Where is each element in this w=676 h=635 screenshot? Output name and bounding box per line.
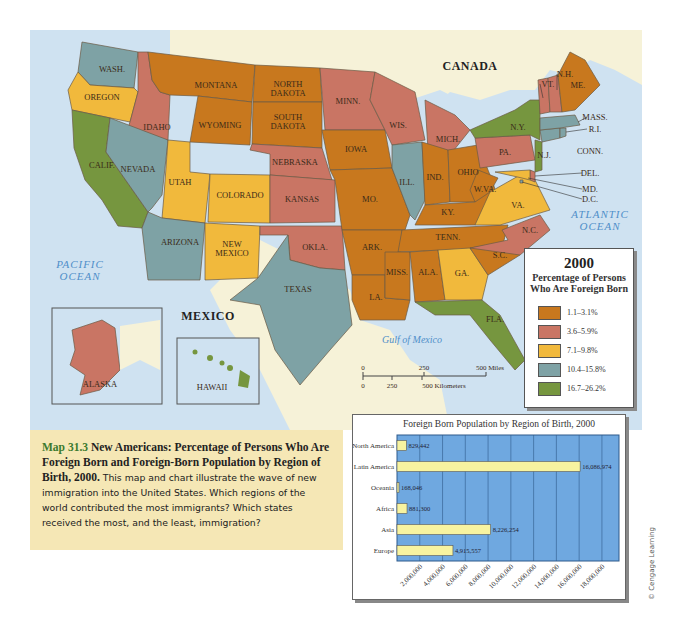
label-la: LA. bbox=[369, 292, 382, 302]
svg-text:500 Miles: 500 Miles bbox=[476, 364, 504, 372]
legend-swatch bbox=[538, 363, 561, 377]
data-label: 881,300 bbox=[409, 505, 430, 512]
label-ky: KY. bbox=[441, 207, 454, 217]
state-ny bbox=[470, 100, 540, 140]
legend-label: 10.4–15.8% bbox=[567, 365, 606, 374]
label-canada: CANADA bbox=[443, 59, 498, 73]
legend-label: 3.6–5.9% bbox=[567, 327, 598, 336]
bar bbox=[397, 504, 407, 514]
label-sc: S.C. bbox=[493, 250, 508, 260]
label-wa: WASH. bbox=[99, 64, 125, 74]
svg-text:250: 250 bbox=[419, 364, 430, 372]
label-ma: MASS. bbox=[582, 112, 607, 122]
x-tick-label: 4,000,000 bbox=[421, 562, 447, 588]
label-ny: N.Y. bbox=[510, 122, 525, 132]
label-nv: NEVADA bbox=[121, 164, 157, 174]
bar bbox=[397, 462, 580, 472]
label-or: OREGON bbox=[84, 92, 119, 102]
label-ks: KANSAS bbox=[285, 194, 319, 204]
label-al: ALA. bbox=[418, 267, 438, 277]
label-in: IND. bbox=[426, 172, 443, 182]
label-nd: NORTHDAKOTA bbox=[270, 79, 306, 98]
legend-item: 16.7–26.2% bbox=[538, 379, 633, 398]
label-mi: MICH. bbox=[436, 134, 460, 144]
category-label: Africa bbox=[376, 505, 395, 513]
label-dc: D.C. bbox=[582, 194, 598, 204]
category-label: Latin America bbox=[354, 463, 395, 471]
legend-swatch bbox=[538, 325, 561, 339]
bar bbox=[397, 441, 406, 451]
label-nj: N.J. bbox=[537, 150, 551, 160]
legend-item: 1.1–3.1% bbox=[538, 303, 633, 322]
caption-number: Map 31.3 bbox=[42, 441, 88, 453]
data-label: 168,046 bbox=[401, 484, 423, 491]
legend: 2000 Percentage of Persons Who Are Forei… bbox=[524, 248, 634, 408]
svg-text:250: 250 bbox=[387, 382, 398, 390]
bar-chart: Foreign Born Population by Region of Bir… bbox=[352, 414, 626, 600]
label-ga: GA. bbox=[455, 268, 469, 278]
label-tn: TENN. bbox=[436, 232, 461, 242]
data-label: 829,442 bbox=[408, 442, 429, 449]
state-dc bbox=[520, 180, 523, 183]
legend-swatch bbox=[538, 382, 561, 396]
label-ri: R.I. bbox=[589, 124, 602, 134]
data-label: 8,226,254 bbox=[493, 526, 520, 533]
label-ar: ARK. bbox=[362, 242, 382, 252]
label-id: IDAHO bbox=[143, 122, 170, 132]
plot-area bbox=[397, 435, 619, 561]
label-ms: MISS. bbox=[386, 267, 408, 277]
label-az: ARIZONA bbox=[161, 237, 200, 247]
map-caption: Map 31.3 New Americans: Percentage of Pe… bbox=[30, 430, 343, 550]
category-label: Asia bbox=[381, 526, 395, 534]
label-wi: WIS. bbox=[389, 120, 407, 130]
label-md: MD. bbox=[582, 184, 598, 194]
state-de bbox=[530, 170, 535, 182]
label-mo: MO. bbox=[362, 194, 378, 204]
label-co: COLORADO bbox=[216, 190, 263, 200]
chart-title: Foreign Born Population by Region of Bir… bbox=[403, 419, 595, 429]
label-wy: WYOMING bbox=[199, 120, 242, 130]
bar bbox=[397, 483, 399, 493]
label-fl: FLA. bbox=[486, 314, 504, 324]
label-ut: UTAH bbox=[169, 177, 192, 187]
bar bbox=[397, 546, 453, 556]
label-ne: NEBRASKA bbox=[272, 157, 319, 167]
label-ia: IOWA bbox=[345, 144, 368, 154]
state-md bbox=[495, 170, 530, 180]
label-atlantic-2: OCEAN bbox=[579, 220, 620, 232]
legend-item: 10.4–15.8% bbox=[538, 360, 633, 379]
label-pacific-2: OCEAN bbox=[59, 270, 100, 282]
credit: © Cengage Learning bbox=[648, 527, 656, 600]
label-me: ME. bbox=[571, 80, 586, 90]
leader-line-de bbox=[535, 173, 582, 176]
state-ct bbox=[540, 128, 560, 142]
label-sd: SOUTHDAKOTA bbox=[270, 112, 306, 131]
legend-item: 3.6–5.9% bbox=[538, 322, 633, 341]
label-ok: OKLA. bbox=[302, 242, 328, 252]
legend-year: 2000 bbox=[525, 255, 633, 272]
label-nc: N.C. bbox=[522, 225, 538, 235]
label-hi: HAWAII bbox=[197, 382, 228, 392]
category-label: North America bbox=[353, 442, 395, 450]
svg-text:500 Kilometers: 500 Kilometers bbox=[422, 382, 466, 390]
legend-label: 1.1–3.1% bbox=[567, 308, 598, 317]
legend-subtitle-2: Who Are Foreign Born bbox=[525, 283, 633, 294]
state-ri bbox=[560, 128, 566, 138]
label-ak: ALASKA bbox=[83, 379, 118, 389]
label-de: DEL. bbox=[581, 168, 600, 178]
label-pacific-1: PACIFIC bbox=[55, 258, 104, 270]
svg-text:0: 0 bbox=[361, 382, 365, 390]
x-tick-label: 6,000,000 bbox=[444, 562, 470, 588]
label-mexico: MEXICO bbox=[181, 309, 235, 323]
label-atlantic-1: ATLANTIC bbox=[570, 208, 629, 220]
label-ca: CALIF. bbox=[89, 160, 115, 170]
x-tick-label: 2,000,000 bbox=[399, 562, 425, 588]
state-ma bbox=[540, 115, 580, 130]
x-tick-label: 18,000,000 bbox=[578, 562, 606, 590]
bar bbox=[397, 525, 491, 535]
svg-text:0: 0 bbox=[361, 364, 365, 372]
bar-chart-svg: Foreign Born Population by Region of Bir… bbox=[353, 415, 625, 599]
category-label: Oceania bbox=[371, 484, 395, 492]
label-mt: MONTANA bbox=[195, 80, 239, 90]
data-label: 4,915,557 bbox=[455, 547, 482, 554]
